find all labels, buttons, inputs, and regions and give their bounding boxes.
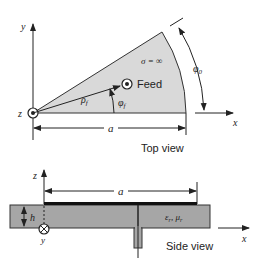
- side-z-label: z: [32, 170, 37, 181]
- feed-label: Feed: [137, 78, 162, 90]
- conductivity-label: σ = ∞: [141, 56, 162, 66]
- top-view: y x z σ = ∞ Feed ρf φf φ0 a Top view: [17, 18, 238, 154]
- top-view-caption: Top view: [141, 142, 184, 154]
- phi0-label: φ0: [193, 63, 203, 76]
- y-axis-label: y: [20, 21, 26, 32]
- sector-patch: [33, 32, 186, 113]
- side-x-label: x: [241, 233, 247, 244]
- side-a-label: a: [118, 185, 124, 197]
- side-view: z a h y εr, μr x Side view: [10, 170, 249, 258]
- side-y-label: y: [40, 235, 45, 245]
- z-axis-label: z: [17, 108, 22, 119]
- sector-patch-antenna-diagram: y x z σ = ∞ Feed ρf φf φ0 a Top view z: [0, 0, 261, 268]
- a-label: a: [108, 122, 114, 134]
- phi0-tick: [170, 18, 183, 26]
- x-axis-label: x: [232, 117, 238, 128]
- patch-conductor: [44, 202, 197, 205]
- h-label: h: [30, 212, 35, 223]
- side-view-caption: Side view: [166, 240, 213, 252]
